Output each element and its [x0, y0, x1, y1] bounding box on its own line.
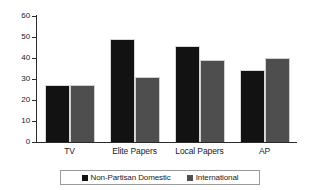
y-tick-label-wrap: 30	[0, 75, 30, 83]
y-tick-label: 0	[6, 138, 30, 146]
bar-elite-papers-international	[135, 77, 160, 142]
y-tick-label-wrap: 60	[0, 12, 30, 20]
chart-legend: Non-Partisan DomesticInternational	[60, 170, 260, 185]
y-tick-label-wrap: 0	[0, 138, 30, 146]
bar-ap-non-partisan-domestic	[240, 70, 265, 142]
x-axis-label-tv: TV	[37, 145, 102, 157]
legend-entry-non-partisan-domestic: Non-Partisan Domestic	[82, 174, 171, 182]
y-tick-mark	[32, 142, 37, 143]
y-tick-label: 10	[6, 117, 30, 125]
x-axis-label-ap: AP	[232, 145, 297, 157]
bar-local-papers-international	[200, 60, 225, 142]
y-tick-label-wrap: 20	[0, 96, 30, 104]
bar-tv-non-partisan-domestic	[45, 85, 70, 142]
y-tick-label: 30	[6, 75, 30, 83]
legend-entry-international: International	[187, 174, 239, 182]
x-axis-label-elite-papers: Elite Papers	[102, 145, 167, 157]
legend-swatch-icon	[82, 175, 88, 181]
x-axis-line	[36, 142, 297, 143]
y-tick-label: 50	[6, 33, 30, 41]
y-tick-label: 40	[6, 54, 30, 62]
y-tick-label-wrap: 50	[0, 33, 30, 41]
y-tick-label: 60	[6, 12, 30, 20]
x-axis-category-labels: TVElite PapersLocal PapersAP	[37, 145, 297, 159]
legend-swatch-icon	[187, 175, 193, 181]
y-tick-label: 20	[6, 96, 30, 104]
bar-local-papers-non-partisan-domestic	[175, 46, 200, 142]
x-axis-label-local-papers: Local Papers	[167, 145, 232, 157]
bar-elite-papers-non-partisan-domestic	[110, 39, 135, 142]
bar-chart: 0102030405060 TVElite PapersLocal Papers…	[0, 0, 319, 190]
bars-layer	[37, 16, 297, 142]
bar-tv-international	[70, 85, 95, 142]
y-tick-label-wrap: 40	[0, 54, 30, 62]
bar-ap-international	[265, 58, 290, 142]
legend-label: International	[196, 174, 239, 182]
legend-label: Non-Partisan Domestic	[91, 174, 171, 182]
y-tick-label-wrap: 10	[0, 117, 30, 125]
